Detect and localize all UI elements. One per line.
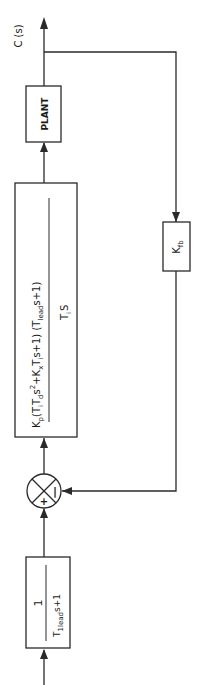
controller-input-arrowhead (40, 438, 48, 448)
sum-input-arrowhead (40, 508, 48, 518)
output-label: C (s) (13, 24, 24, 47)
sum-feedback-arrowhead (62, 487, 72, 495)
summing-junction: + | (27, 474, 61, 508)
plant-label: PLANT (40, 97, 50, 131)
input-arrowhead (40, 649, 48, 659)
output-arrowhead (40, 17, 48, 29)
prefilter-numerator: 1 (32, 600, 45, 607)
plus-sign: + (40, 496, 48, 507)
feedback-return-line (62, 271, 176, 491)
feedback-block-input-arrowhead (172, 212, 180, 222)
minus-sign: | (53, 485, 57, 498)
plant-input-arrowhead (40, 142, 48, 152)
block-diagram: 1 T1leads+1 + | Kp(TiTds2+KxTis+1) (Tlea… (0, 0, 202, 685)
